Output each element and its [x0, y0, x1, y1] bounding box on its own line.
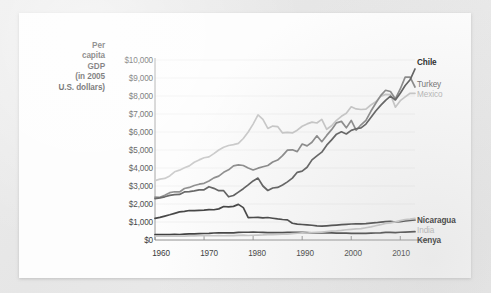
series-label-mexico: Mexico [417, 90, 442, 99]
series-line-nicaragua [155, 204, 415, 226]
line-chart: Per capita GDP (in 2005 U.S. dollars) $1… [19, 13, 471, 278]
figure-card: Per capita GDP (in 2005 U.S. dollars) $1… [19, 13, 471, 278]
series-label-chile: Chile [417, 58, 437, 67]
series-line-turkey [155, 77, 415, 197]
gridlines [155, 60, 415, 240]
chart-plot-svg [19, 13, 471, 278]
series-line-chile [155, 69, 415, 199]
series-label-turkey: Turkey [417, 80, 441, 89]
series-label-nicaragua: Nicaragua [417, 216, 456, 225]
series-lines [155, 69, 415, 236]
series-label-kenya: Kenya [417, 236, 441, 245]
screenshot-root: Per capita GDP (in 2005 U.S. dollars) $1… [0, 0, 491, 293]
series-line-mexico [155, 93, 415, 180]
series-label-india: India [417, 226, 434, 235]
